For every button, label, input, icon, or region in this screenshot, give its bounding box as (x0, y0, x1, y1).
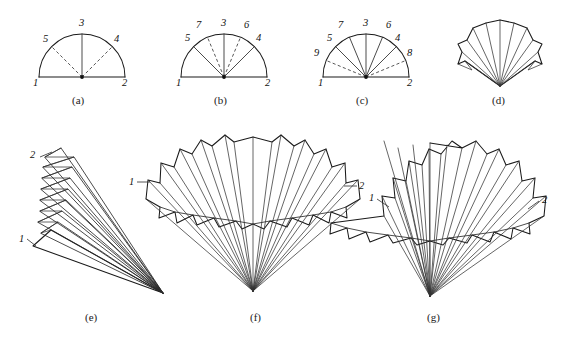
panel-g-fold-r11 (430, 196, 546, 296)
panel-b-drawing (181, 34, 267, 79)
panel-g-drawing (330, 141, 546, 296)
panel-g-fold-l7 (409, 161, 430, 296)
panel-g-fold-r2 (430, 148, 462, 296)
panel-g-fold-l12 (384, 216, 430, 296)
panel-g-fold-r1 (430, 145, 447, 296)
panel-b-rib-6-dashed (224, 37, 241, 77)
panel-f-fold-r9 (253, 183, 346, 291)
panel-f-fold-r2 (253, 135, 281, 291)
panel-b-rib-5-solid (194, 47, 224, 77)
panel-f-label-1: 1 (129, 177, 134, 188)
panel-d-fold-3 (473, 28, 500, 86)
panel-b-rib-7-dashed (208, 37, 225, 77)
panel-b-label-1: 1 (176, 78, 181, 89)
panel-b-label-3: 3 (221, 18, 226, 29)
panel-a-label-2: 2 (122, 78, 127, 89)
panel-c-rib-5-solid (336, 47, 366, 77)
panel-d-drawing (458, 20, 542, 86)
panel-g-leader-2 (528, 201, 539, 209)
panel-c-label-5: 5 (327, 33, 332, 44)
panel-g-fold-r9 (430, 178, 535, 296)
panel-c-label-1: 1 (318, 78, 323, 89)
panel-f-label-2: 2 (359, 181, 364, 192)
caption-e: (e) (85, 312, 97, 323)
caption-c: (c) (356, 95, 368, 106)
panel-g-fold-r7 (430, 161, 519, 296)
panel-f-fold-l7 (174, 167, 253, 291)
panel-d-notch-right (528, 61, 542, 70)
panel-a-pivot (80, 75, 84, 79)
caption-d: (d) (492, 95, 505, 106)
panel-c-label-3: 3 (363, 18, 368, 29)
panel-c-rib-7-solid (350, 37, 367, 77)
panel-a-rib-5-dashed (52, 47, 82, 77)
panel-e-leader-1 (27, 239, 36, 246)
fan-construction-figure: 1 2 3 4 5 1 2 3 4 5 6 7 1 2 3 4 5 6 7 8 … (0, 0, 566, 339)
panel-b-label-4: 4 (256, 33, 261, 44)
panel-e-drawing (27, 148, 163, 293)
panel-b-pivot (222, 75, 226, 79)
panel-f-fold-l6 (180, 149, 253, 291)
panel-e-label-1: 1 (19, 234, 24, 245)
panel-d-fold-11 (500, 61, 535, 86)
panel-d-fold-10 (500, 52, 538, 86)
panel-b-label-2: 2 (265, 78, 270, 89)
panel-b-label-5: 5 (185, 33, 190, 44)
caption-a: (a) (72, 95, 84, 106)
panel-c-rib-6-solid (366, 37, 383, 77)
panel-d-fold-5 (462, 52, 500, 86)
panel-c-label-8: 8 (407, 48, 412, 59)
panel-g-fold-r6 (430, 165, 506, 296)
panel-g-fold-r12 (430, 216, 544, 296)
panel-d-fold-6 (465, 61, 500, 86)
panel-a-label-5: 5 (43, 34, 48, 45)
panel-g-fold-r3 (430, 141, 476, 296)
panel-c-rib-4-solid (366, 47, 396, 77)
panel-g-fold-l1 (413, 145, 430, 296)
panel-a-label-3: 3 (79, 18, 84, 29)
figure-canvas (0, 0, 566, 339)
panel-f-fold-l2 (225, 135, 253, 291)
panel-g-fold-l4 (430, 154, 441, 296)
panel-c-label-9: 9 (314, 48, 319, 59)
panel-d-notch-left (458, 61, 472, 70)
panel-f-fold-r7 (253, 167, 332, 291)
panel-b-label-6: 6 (244, 20, 249, 31)
panel-c-label-2: 2 (407, 78, 412, 89)
panel-g-fold-r4 (430, 154, 487, 296)
panel-c-label-6: 6 (386, 20, 391, 31)
panel-g-label-2: 2 (542, 195, 547, 206)
panel-f-fold-l9 (160, 183, 253, 291)
panel-a-rib-4-dashed (82, 47, 112, 77)
caption-b: (b) (214, 95, 227, 106)
panel-g-fold-r10 (430, 198, 533, 296)
panel-e-label-2: 2 (30, 150, 35, 161)
panel-c-label-4: 4 (395, 33, 400, 44)
panel-a-label-4: 4 (114, 34, 119, 45)
panel-g-fold-l9 (393, 178, 430, 296)
panel-f-fold-r6 (253, 149, 326, 291)
panel-c-label-7: 7 (338, 20, 343, 31)
caption-g: (g) (427, 312, 440, 323)
panel-b-label-7: 7 (196, 20, 201, 31)
panel-b-rib-4-solid (224, 47, 254, 77)
panel-f-drawing (137, 135, 360, 291)
panel-d-fold-8 (500, 28, 527, 86)
caption-f: (f) (250, 312, 261, 323)
panel-a-label-1: 1 (33, 78, 38, 89)
panel-g-label-1: 1 (369, 193, 374, 204)
panel-a-drawing (39, 34, 125, 79)
panel-g-fold-l11 (382, 196, 430, 296)
panel-c-pivot (364, 75, 368, 79)
